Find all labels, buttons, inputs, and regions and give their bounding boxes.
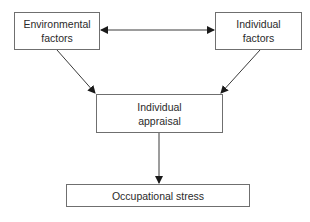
node-individual-factors: Individual factors: [215, 12, 302, 50]
node-occupational-stress: Occupational stress: [66, 184, 250, 207]
edge-individual-appraisal: [221, 50, 260, 93]
node-label: Environmental factors: [23, 17, 90, 45]
node-label: Individual factors: [236, 17, 280, 45]
node-label: Individual appraisal: [137, 100, 181, 128]
edge-environmental-appraisal: [57, 50, 95, 93]
node-environmental-factors: Environmental factors: [14, 12, 100, 50]
node-individual-appraisal: Individual appraisal: [96, 94, 223, 133]
node-label: Occupational stress: [112, 189, 204, 203]
